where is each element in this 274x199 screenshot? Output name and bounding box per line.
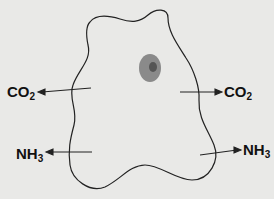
label-text: NH — [16, 145, 38, 162]
label-subscript: 2 — [247, 91, 253, 102]
label-nh3-right: NH3 — [243, 142, 270, 160]
label-subscript: 3 — [265, 149, 271, 160]
arrow-co2-left — [42, 88, 91, 92]
label-co2-right: CO2 — [224, 84, 252, 102]
label-text: CO — [7, 83, 30, 100]
label-text: NH — [243, 141, 265, 158]
label-text: CO — [224, 83, 247, 100]
label-subscript: 3 — [38, 153, 44, 164]
cell-membrane — [69, 10, 216, 188]
label-nh3-left: NH3 — [16, 146, 43, 164]
nucleolus — [149, 62, 157, 72]
label-subscript: 2 — [30, 91, 36, 102]
arrow-nh3-right — [200, 150, 237, 155]
label-co2-left: CO2 — [7, 84, 35, 102]
